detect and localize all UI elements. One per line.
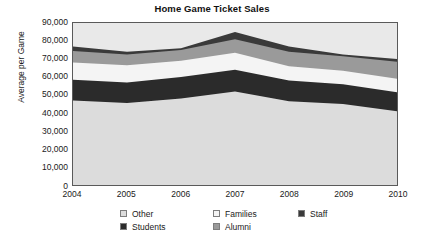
y-tick-label: 90,000: [2, 18, 68, 27]
legend-label: Families: [225, 209, 257, 219]
stacked-area-svg: [73, 23, 397, 185]
y-tick-label: 10,000: [2, 163, 68, 172]
y-tick-label: 20,000: [2, 145, 68, 154]
y-tick-label: 40,000: [2, 109, 68, 118]
legend-item-staff[interactable]: Staff: [298, 207, 355, 220]
plot-area: [72, 22, 398, 186]
legend-label: Staff: [310, 209, 327, 219]
legend-label: Students: [132, 222, 166, 232]
y-axis-tick-labels: 010,00020,00030,00040,00050,00060,00070,…: [0, 0, 68, 188]
x-tick-label: 2005: [117, 189, 136, 199]
y-tick-label: 70,000: [2, 54, 68, 63]
x-tick-label: 2008: [280, 189, 299, 199]
legend-swatch-icon: [120, 210, 127, 217]
legend-label: Other: [132, 209, 153, 219]
legend-item-students[interactable]: Students: [120, 220, 213, 233]
x-tick-label: 2006: [171, 189, 190, 199]
y-tick-label: 60,000: [2, 72, 68, 81]
y-tick-label: 50,000: [2, 90, 68, 99]
x-axis-tick-labels: 2004200520062007200820092010: [72, 189, 398, 203]
y-tick-label: 80,000: [2, 36, 68, 45]
x-tick-label: 2009: [334, 189, 353, 199]
legend-swatch-icon: [213, 223, 220, 230]
legend-item-alumni[interactable]: Alumni: [213, 220, 298, 233]
legend-label: Alumni: [225, 222, 251, 232]
legend-swatch-icon: [298, 210, 305, 217]
y-tick-label: 30,000: [2, 127, 68, 136]
legend-swatch-icon: [120, 223, 127, 230]
x-tick-label: 2007: [226, 189, 245, 199]
area-band-other: [73, 91, 397, 185]
area-series-group: [73, 32, 397, 185]
chart-legend: OtherFamiliesStaffStudentsAlumni: [120, 207, 355, 233]
x-tick-label: 2010: [389, 189, 408, 199]
x-tick-label: 2004: [63, 189, 82, 199]
legend-swatch-icon: [213, 210, 220, 217]
y-tick-label: 0: [2, 182, 68, 191]
legend-item-families[interactable]: Families: [213, 207, 298, 220]
chart-container: Home Game Ticket Sales Average per Game …: [0, 0, 424, 242]
legend-item-other[interactable]: Other: [120, 207, 213, 220]
